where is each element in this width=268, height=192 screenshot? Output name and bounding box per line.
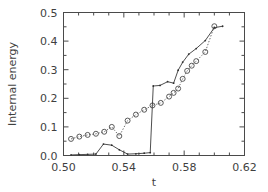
data-point-marker [109,124,114,129]
data-point-marker [182,61,184,63]
series-group [69,24,224,156]
data-point-marker [167,94,172,99]
data-point-marker [222,25,224,27]
x-tick-label: 0.54 [112,161,137,174]
data-point-marker [117,134,122,139]
data-point-marker [213,27,215,29]
data-point-marker [194,59,199,64]
series-line-open-circle-dotted-series [71,26,214,139]
data-point-marker [142,107,147,112]
x-tick-label: 0.58 [172,161,197,174]
x-tick-label: 0.62 [232,161,257,174]
data-point-marker [203,49,208,54]
data-point-marker [152,85,154,87]
data-point-marker [159,85,161,87]
plot-canvas: 0.500.540.580.620.00.10.20.30.40.5tInter… [0,0,268,192]
data-point-marker [95,153,97,155]
data-point-marker [87,153,89,155]
y-tick-label: 0.2 [40,92,58,105]
data-point-marker [111,144,113,146]
data-point-marker [118,149,120,151]
data-point-marker [135,153,137,155]
data-point-marker [158,100,163,105]
data-point-marker [173,82,175,84]
data-point-marker [195,48,197,50]
plot-frame [64,13,245,156]
data-point-marker [189,63,194,68]
y-tick-label: 0.5 [40,7,58,20]
data-point-marker [188,53,190,55]
y-tick-label: 0.3 [40,64,58,77]
data-point-marker [133,112,138,117]
y-tick-label: 0.4 [40,35,58,48]
data-point-marker [149,152,151,154]
data-point-marker [204,40,206,42]
data-point-marker [127,153,129,155]
chart-figure: 0.500.540.580.620.00.10.20.30.40.5tInter… [0,0,268,192]
data-point-marker [143,152,145,154]
y-tick-label: 0.0 [40,150,58,163]
data-point-marker [171,90,176,95]
data-point-marker [103,143,105,145]
data-point-marker [167,81,169,83]
x-axis-title: t [152,176,157,189]
y-tick-label: 0.1 [40,121,58,134]
data-point-marker [177,69,179,71]
y-axis-title: Internal energy [6,41,19,126]
data-point-marker [176,86,181,91]
data-point-marker [78,154,80,156]
